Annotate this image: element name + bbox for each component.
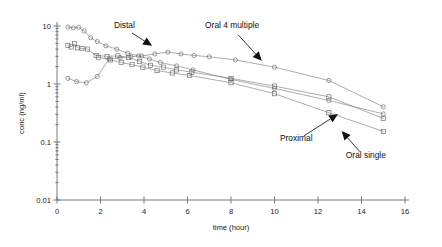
y-tick-label: 0.01 — [36, 196, 51, 205]
y-tick-label: 1 — [47, 80, 51, 89]
chart-canvas: 0.010.11100246810121416time (hour)conc (… — [0, 0, 442, 247]
y-axis-title: conc (ng/ml) — [17, 92, 26, 134]
x-tick-label: 16 — [401, 207, 409, 216]
annotation-arrow-stem — [132, 33, 144, 41]
series-line-oral-4-multiple — [68, 52, 383, 107]
x-tick-label: 12 — [314, 207, 322, 216]
pk-concentration-time-chart: 0.010.11100246810121416time (hour)conc (… — [0, 0, 442, 247]
annotation-label-oral-single: Oral single — [346, 150, 386, 160]
annotation-arrow-stem — [238, 35, 256, 54]
series-line-proximal — [68, 44, 383, 119]
x-axis-title: time (hour) — [213, 223, 250, 232]
x-tick-label: 4 — [142, 207, 146, 216]
annotation-arrow-head — [142, 38, 152, 46]
annotation-arrow-head — [342, 131, 351, 140]
x-tick-label: 8 — [229, 207, 233, 216]
x-tick-label: 0 — [55, 207, 59, 216]
x-tick-label: 14 — [357, 207, 365, 216]
annotation-label-proximal: Proximal — [280, 133, 313, 143]
x-tick-label: 6 — [185, 207, 189, 216]
x-tick-label: 10 — [270, 207, 278, 216]
annotation-arrow-head — [328, 114, 338, 122]
x-tick-label: 2 — [98, 207, 102, 216]
y-tick-label: 10 — [43, 22, 51, 31]
y-tick-label: 0.1 — [40, 138, 51, 147]
annotation-label-distal: Distal — [114, 20, 135, 30]
annotation-label-oral-4-multiple: Oral 4 multiple — [205, 20, 259, 30]
series-line-distal — [68, 27, 383, 114]
annotation-arrow-stem — [304, 119, 331, 136]
